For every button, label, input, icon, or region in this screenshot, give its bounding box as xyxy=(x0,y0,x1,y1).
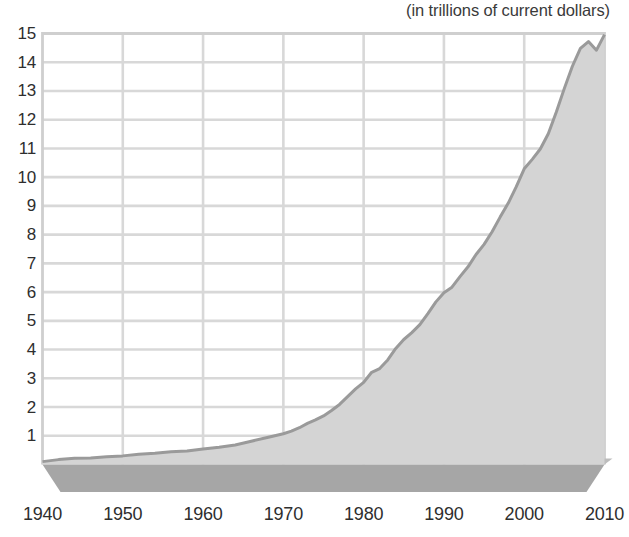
y-axis-tick-7: 7 xyxy=(2,255,36,272)
y-axis-tick-5: 5 xyxy=(2,312,36,329)
y-axis-tick-11: 11 xyxy=(2,140,36,157)
x-axis-tick-1970: 1970 xyxy=(247,505,319,523)
y-axis-tick-14: 14 xyxy=(2,54,36,71)
y-axis-tick-8: 8 xyxy=(2,226,36,243)
y-axis-tick-12: 12 xyxy=(2,111,36,128)
y-axis-tick-4: 4 xyxy=(2,341,36,358)
y-axis-tick-1: 1 xyxy=(2,427,36,444)
x-axis-tick-2000: 2000 xyxy=(488,505,560,523)
x-axis-tick-1950: 1950 xyxy=(87,505,159,523)
area-series-gdp xyxy=(43,35,605,465)
y-axis-tick-13: 13 xyxy=(2,82,36,99)
y-axis-tick-9: 9 xyxy=(2,197,36,214)
x-axis-tick-1940: 1940 xyxy=(7,505,79,523)
y-axis-tick-2: 2 xyxy=(2,399,36,416)
x-axis-tick-1980: 1980 xyxy=(328,505,400,523)
y-axis-tick-3: 3 xyxy=(2,370,36,387)
y-axis-tick-10: 10 xyxy=(2,169,36,186)
y-axis-tick-15: 15 xyxy=(2,25,36,42)
y-axis-tick-6: 6 xyxy=(2,284,36,301)
x-axis-tick-1990: 1990 xyxy=(408,505,480,523)
x-axis-tick-2010: 2010 xyxy=(569,505,629,523)
x-axis-tick-1960: 1960 xyxy=(167,505,239,523)
